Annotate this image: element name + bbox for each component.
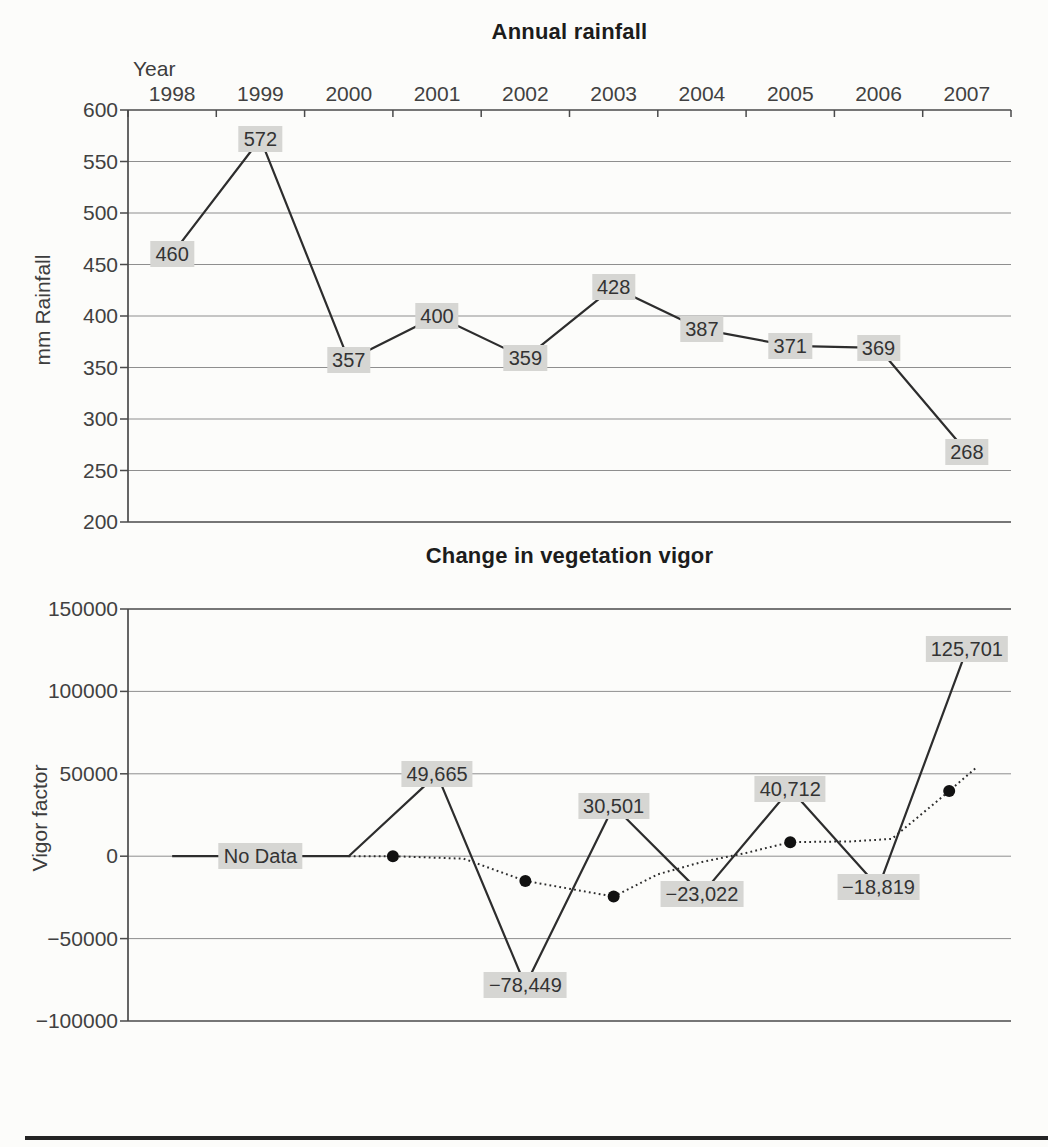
mean-change-marker	[608, 891, 620, 903]
mean-change-marker	[784, 836, 796, 848]
legend: Vegetation vigor factor Mean change betw…	[0, 1050, 1048, 1110]
page-bottom-rule	[25, 1136, 1048, 1140]
page: Annual rainfall Year mm Rainfall Change …	[0, 0, 1048, 1147]
mean-change-marker	[519, 875, 531, 887]
charts-canvas	[0, 0, 1048, 1147]
rainfall-line	[172, 139, 967, 452]
mean-change-marker	[943, 785, 955, 797]
vigor-line	[172, 649, 967, 985]
mean-change-marker	[387, 850, 399, 862]
